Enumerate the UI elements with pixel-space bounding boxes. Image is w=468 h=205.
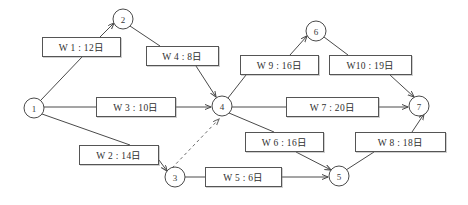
node-4[interactable]: 4 bbox=[212, 96, 232, 116]
task-box-w4[interactable]: W 4 : 8日 bbox=[146, 46, 219, 66]
edge-1-to-w2 bbox=[42, 114, 130, 145]
edge-w10-to-7 bbox=[390, 75, 414, 97]
edge-w6-to-5 bbox=[296, 152, 331, 170]
node-3-label: 3 bbox=[173, 173, 178, 183]
task-box-w9[interactable]: W 9 : 16日 bbox=[240, 55, 319, 75]
edge-2-to-w4 bbox=[130, 26, 160, 46]
edge-4-to-w9 bbox=[228, 75, 246, 98]
edge-dummy-3-to-4 bbox=[172, 119, 219, 168]
node-1-label: 1 bbox=[32, 104, 37, 114]
task-box-w6[interactable]: W 6 : 16日 bbox=[245, 132, 324, 152]
node-2-label: 2 bbox=[121, 15, 126, 25]
edge-1-to-w1 bbox=[41, 57, 82, 100]
edge-w4-to-4 bbox=[196, 66, 216, 97]
task-box-w10[interactable]: W10 : 19日 bbox=[329, 55, 412, 75]
task-box-w3[interactable]: W 3 : 10日 bbox=[96, 97, 176, 117]
node-7[interactable]: 7 bbox=[409, 96, 429, 116]
edge-6-to-w10 bbox=[324, 37, 348, 55]
edge-w1-to-2 bbox=[100, 23, 114, 37]
task-box-w5[interactable]: W 5 : 6日 bbox=[205, 167, 282, 187]
node-6-label: 6 bbox=[314, 27, 319, 37]
task-box-w7[interactable]: W 7 : 20日 bbox=[286, 97, 379, 117]
edge-w9-to-6 bbox=[290, 36, 307, 55]
node-6[interactable]: 6 bbox=[306, 21, 326, 41]
edge-5-to-w8 bbox=[346, 152, 374, 170]
edge-w2-to-3 bbox=[159, 160, 167, 171]
node-4-label: 4 bbox=[220, 102, 225, 112]
edge-w8-to-7 bbox=[412, 114, 424, 132]
node-3[interactable]: 3 bbox=[165, 167, 185, 187]
node-5[interactable]: 5 bbox=[329, 166, 349, 186]
network-diagram-canvas: 1 2 3 4 5 6 7 W 1 : 12日 W 2 : 14日 W 3 : … bbox=[0, 0, 468, 205]
task-box-w2[interactable]: W 2 : 14日 bbox=[79, 145, 159, 165]
node-7-label: 7 bbox=[417, 102, 422, 112]
edge-4-to-w6 bbox=[229, 113, 274, 132]
node-2[interactable]: 2 bbox=[113, 9, 133, 29]
node-5-label: 5 bbox=[337, 172, 342, 182]
task-box-w8[interactable]: W 8 : 18日 bbox=[355, 132, 446, 152]
node-1[interactable]: 1 bbox=[24, 98, 44, 118]
task-box-w1[interactable]: W 1 : 12日 bbox=[42, 37, 121, 57]
